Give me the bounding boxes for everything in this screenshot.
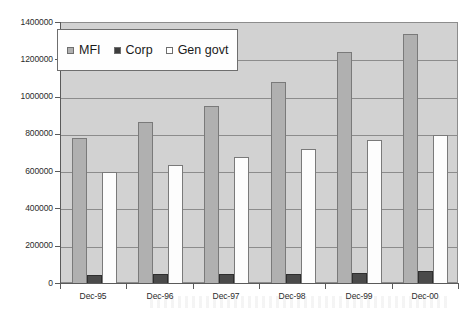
gridline — [61, 135, 457, 136]
y-axis-tick: 1400000 — [0, 18, 53, 27]
bar — [168, 165, 183, 284]
y-axis-tick-label: 600000 — [1, 167, 53, 176]
y-axis-tick-mark — [55, 171, 61, 172]
y-axis-tick-label: 800000 — [1, 129, 53, 138]
bar — [367, 140, 382, 284]
gridline — [61, 98, 457, 99]
bar — [138, 122, 153, 284]
y-axis-tick-mark — [55, 246, 61, 247]
y-axis-tick: 200000 — [0, 241, 53, 250]
legend-label: MFI — [79, 44, 101, 57]
bar — [403, 34, 418, 284]
gridline — [61, 247, 457, 248]
chart-legend: MFICorpGen govt — [57, 29, 238, 71]
y-axis-tick: 0 — [0, 279, 53, 288]
legend-entry: MFI — [67, 44, 101, 57]
legend-entry: Corp — [114, 44, 153, 57]
bar — [337, 52, 352, 284]
bar-chart: 0200000400000600000800000100000012000001… — [0, 0, 472, 313]
scan-artifact — [150, 296, 450, 308]
y-axis-tick: 400000 — [0, 204, 53, 213]
legend-swatch-icon — [166, 47, 173, 54]
x-axis-tick-mark — [126, 284, 127, 289]
y-axis-tick: 1000000 — [0, 92, 53, 101]
bar — [204, 106, 219, 284]
legend-swatch-icon — [114, 47, 121, 54]
x-axis-tick-mark — [458, 284, 459, 289]
x-axis-tick-label: Dec-95 — [63, 291, 123, 301]
bar — [102, 172, 117, 284]
y-axis-tick-label: 1200000 — [1, 55, 53, 64]
x-axis-tick-mark — [392, 284, 393, 289]
x-axis-tick-mark — [193, 284, 194, 289]
y-axis-tick: 600000 — [0, 167, 53, 176]
bar — [234, 157, 249, 284]
legend-label: Gen govt — [178, 44, 229, 57]
y-axis-tick-mark — [55, 22, 61, 23]
y-axis-tick-mark — [55, 134, 61, 135]
y-axis-tick-label: 1000000 — [1, 92, 53, 101]
legend-label: Corp — [126, 44, 153, 57]
y-axis-tick: 800000 — [0, 129, 53, 138]
y-axis-tick-mark — [55, 97, 61, 98]
y-axis-tick-label: 200000 — [1, 241, 53, 250]
y-axis-tick-mark — [55, 208, 61, 209]
x-axis-tick-mark — [259, 284, 260, 289]
y-axis-tick-label: 0 — [1, 279, 53, 288]
bar — [72, 138, 87, 284]
y-axis-tick: 1200000 — [0, 55, 53, 64]
gridline — [61, 209, 457, 210]
bar — [433, 135, 448, 284]
bar — [301, 149, 316, 284]
x-axis-tick-mark — [325, 284, 326, 289]
bar — [271, 82, 286, 284]
gridline — [61, 172, 457, 173]
x-axis-tick-mark — [60, 284, 61, 289]
y-axis-tick-label: 400000 — [1, 204, 53, 213]
y-axis-tick-label: 1400000 — [1, 18, 53, 27]
legend-entry: Gen govt — [166, 44, 229, 57]
legend-swatch-icon — [67, 47, 74, 54]
